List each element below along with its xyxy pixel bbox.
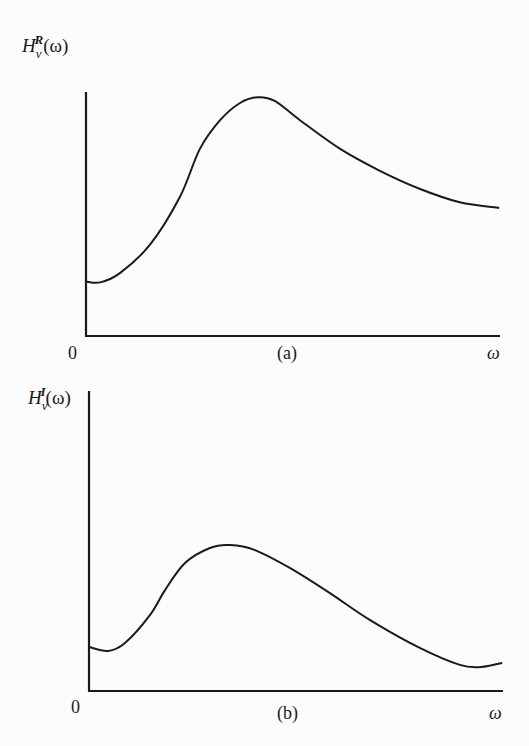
panel-label-b: (b): [277, 703, 298, 724]
panel-a: HvR(ω) 0 (a) ω: [21, 32, 500, 364]
curve-hv-imag: [89, 545, 502, 667]
panel-label-a: (a): [277, 343, 297, 364]
xlabel-b: ω: [489, 703, 502, 723]
origin-label-b: 0: [71, 697, 80, 717]
curve-hv-real: [86, 97, 499, 283]
panel-b: HvI(ω) 0 (b) ω: [27, 384, 503, 724]
ylabel-b: HvI(ω): [27, 384, 71, 413]
origin-label-a: 0: [68, 343, 77, 363]
xlabel-a: ω: [487, 343, 500, 363]
figure: HvR(ω) 0 (a) ω HvI(ω) 0 (b) ω: [0, 0, 529, 746]
ylabel-a: HvR(ω): [21, 32, 68, 61]
